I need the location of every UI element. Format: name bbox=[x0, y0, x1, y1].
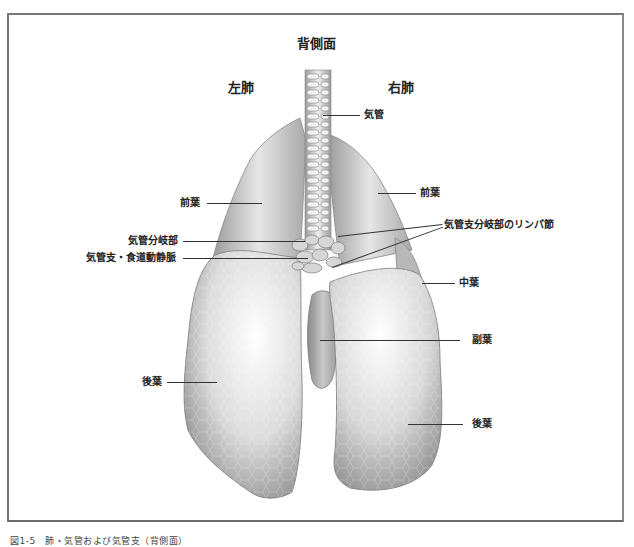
label-right-cranial-lobe: 前葉 bbox=[420, 187, 440, 199]
figure-caption: 図1-5 肺・気管および気管支（背側面） bbox=[10, 534, 188, 547]
leader-right-caudal bbox=[408, 424, 463, 425]
label-middle-lobe: 中葉 bbox=[459, 277, 479, 289]
label-tracheal-bifurcation: 気管分岐部 bbox=[128, 235, 178, 247]
label-left-cranial-lobe: 前葉 bbox=[180, 197, 200, 209]
leader-left-cranial bbox=[207, 203, 262, 204]
label-left-caudal-lobe: 後葉 bbox=[142, 376, 162, 388]
left-lung-label: 左肺 bbox=[228, 82, 254, 94]
label-accessory-lobe: 副葉 bbox=[472, 334, 492, 346]
label-trachea: 気管 bbox=[364, 109, 384, 121]
leader-trachea bbox=[323, 115, 360, 116]
leader-accessory-lobe bbox=[320, 340, 460, 341]
leader-bifurcation bbox=[183, 241, 305, 242]
right-lung-label: 右肺 bbox=[388, 82, 414, 94]
label-right-caudal-lobe: 後葉 bbox=[472, 418, 492, 430]
label-tracheobronchial-lymph-nodes: 気管支分岐部のリンパ節 bbox=[444, 219, 554, 231]
leader-middle-lobe bbox=[422, 283, 455, 284]
leader-right-cranial bbox=[378, 193, 416, 194]
label-bronchoesophageal-vessels: 気管支・食道動静脈 bbox=[86, 252, 176, 264]
view-title: 背側面 bbox=[297, 38, 336, 50]
leader-left-caudal bbox=[167, 382, 217, 383]
leader-bronchoesophageal bbox=[183, 258, 308, 259]
